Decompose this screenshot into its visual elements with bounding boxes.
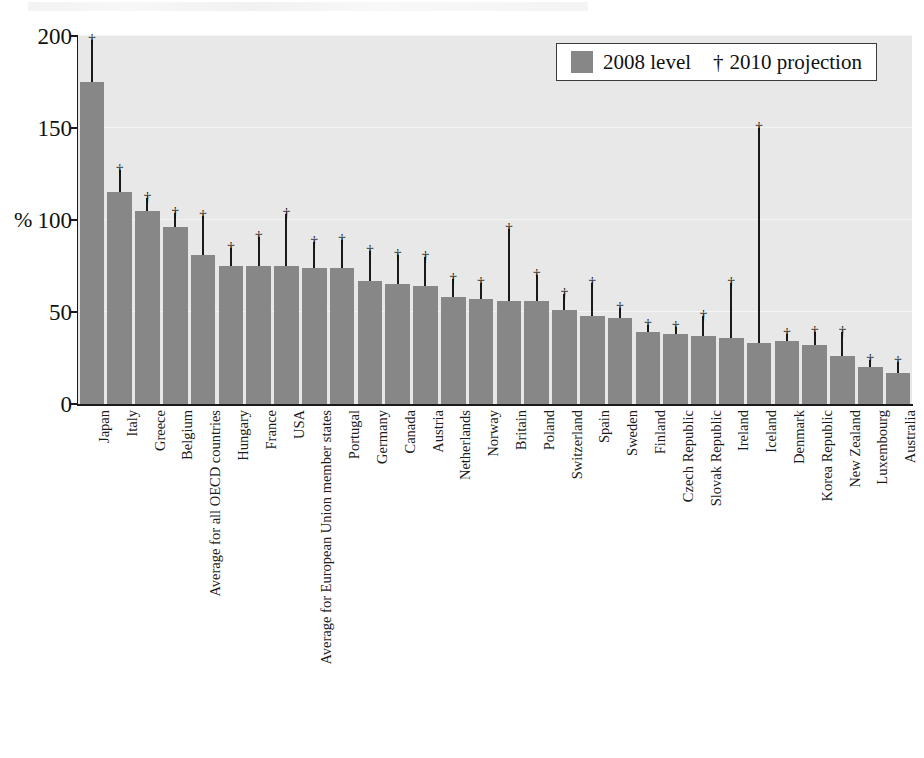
projection-dagger-icon: † [227,242,235,252]
bar-2008-level[interactable] [219,266,243,404]
bar-group[interactable]: † [217,36,245,404]
bar-group[interactable]: † [745,36,773,404]
x-tick-label-wrapper: Greece [153,410,168,451]
bar-group[interactable]: † [245,36,273,404]
bar-2008-level[interactable] [385,284,409,404]
projection-dagger-icon: † [894,356,902,366]
projection-dagger-icon: † [589,277,597,287]
projection-dagger-icon: † [644,319,652,329]
bar-group[interactable]: † [189,36,217,404]
x-tick-label-wrapper: Finland [653,410,668,454]
bar-2008-level[interactable] [80,82,104,404]
projection-dagger-icon: † [811,326,819,336]
bar-2008-level[interactable] [302,268,326,404]
projection-dagger-icon: † [533,269,541,279]
x-tick-label: Germany [375,410,390,464]
bar-group[interactable]: † [106,36,134,404]
bar-group[interactable]: † [161,36,189,404]
bar-group[interactable]: † [551,36,579,404]
bar-2008-level[interactable] [747,343,771,404]
projection-dagger-icon: † [672,321,680,331]
bar-group[interactable]: † [134,36,162,404]
bar-2008-level[interactable] [580,316,604,404]
x-tick-label: Slovak Republic [709,410,724,506]
bar-2008-level[interactable] [163,227,187,404]
bar-group[interactable]: † [356,36,384,404]
bar-2008-level[interactable] [413,286,437,404]
bar-2008-level[interactable] [469,299,493,404]
bar-group[interactable]: † [328,36,356,404]
bar-2008-level[interactable] [719,338,743,404]
x-tick-label: Japan [97,410,112,443]
bar-2008-level[interactable] [691,336,715,404]
projection-dagger-icon: † [255,231,263,241]
projection-dagger-icon: † [144,192,152,202]
projection-dagger-icon: † [199,210,207,220]
y-axis: % 050100150200 [0,0,72,420]
bar-group[interactable]: † [523,36,551,404]
x-tick-label: Austria [431,410,446,453]
bar-2008-level[interactable] [802,345,826,404]
x-tick-label: Switzerland [570,410,585,479]
x-tick-label-wrapper: Hungary [236,410,251,461]
bar-group[interactable]: † [634,36,662,404]
x-tick-label: Sweden [625,410,640,456]
bar-group[interactable]: † [690,36,718,404]
bar-2008-level[interactable] [524,301,548,404]
bar-2008-level[interactable] [107,192,131,404]
projection-dagger-icon: † [422,251,430,261]
x-tick-label-wrapper: Poland [542,410,557,450]
bar-group[interactable]: † [856,36,884,404]
bar-group[interactable]: † [467,36,495,404]
bar-group[interactable]: † [801,36,829,404]
x-axis-labels: JapanItalyGreeceBelgiumAverage for all O… [78,410,912,750]
bar-group[interactable]: † [662,36,690,404]
x-tick-label: Norway [486,410,501,457]
bar-2008-level[interactable] [441,297,465,404]
projection-dagger-icon: † [394,249,402,259]
bar-2008-level[interactable] [636,332,660,404]
bar-2008-level[interactable] [775,341,799,404]
bar-group[interactable]: † [884,36,912,404]
bar-group[interactable]: † [78,36,106,404]
bar-2008-level[interactable] [858,367,882,404]
bar-2008-level[interactable] [497,301,521,404]
x-tick-label-wrapper: Switzerland [570,410,585,479]
bar-group[interactable]: † [606,36,634,404]
x-tick-label-wrapper: Sweden [625,410,640,456]
x-tick-label: Average for all OECD countries [208,410,223,597]
x-tick-label: Finland [653,410,668,454]
chart-root: % 050100150200 †††††††††††††††††††††††††… [0,0,924,758]
projection-dagger-icon: † [450,273,458,283]
bar-2008-level[interactable] [830,356,854,404]
bar-group[interactable]: † [495,36,523,404]
x-tick-label-wrapper: Luxembourg [875,410,890,485]
bar-2008-level[interactable] [135,211,159,404]
bar-2008-level[interactable] [552,310,576,404]
bar-group[interactable]: † [439,36,467,404]
bar-group[interactable]: † [578,36,606,404]
x-tick-label: New Zealand [848,410,863,488]
bar-2008-level[interactable] [358,281,382,404]
bar-group[interactable]: † [773,36,801,404]
bar-2008-level[interactable] [191,255,215,404]
bar-2008-level[interactable] [608,318,632,404]
bar-group[interactable]: † [717,36,745,404]
bar-group[interactable]: † [412,36,440,404]
bar-2008-level[interactable] [663,334,687,404]
bar-group[interactable]: † [300,36,328,404]
bar-group[interactable]: † [273,36,301,404]
x-tick-label: Spain [597,410,612,443]
bar-group[interactable]: † [829,36,857,404]
x-tick-label-wrapper: Slovak Republic [709,410,724,506]
bar-group[interactable]: † [384,36,412,404]
x-tick-label-wrapper: Average for European Union member states [319,410,334,665]
bar-2008-level[interactable] [246,266,270,404]
projection-dagger-icon: † [311,236,319,246]
chart-legend: 2008 level † 2010 projection [556,43,877,81]
bar-2008-level[interactable] [886,373,910,404]
bar-2008-level[interactable] [330,268,354,404]
bar-2008-level[interactable] [274,266,298,404]
legend-label-2008-level: 2008 level [603,52,691,73]
x-tick-label-wrapper: Australia [903,410,918,463]
